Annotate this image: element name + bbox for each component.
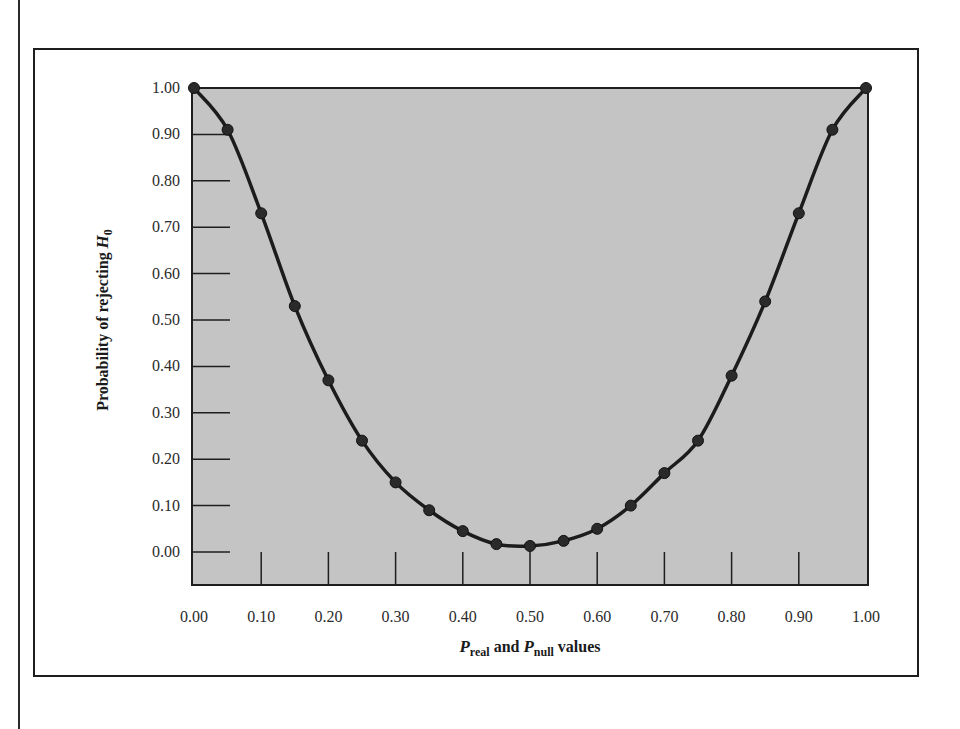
x-tick-label: 0.40	[449, 608, 477, 625]
y-tick-label: 0.80	[152, 172, 180, 189]
y-tick-label: 0.00	[152, 543, 180, 560]
x-axis-tick-labels: 0.000.100.200.300.400.500.600.700.800.90…	[180, 608, 880, 625]
data-point-marker	[457, 526, 468, 537]
data-point-marker	[525, 540, 536, 551]
x-title-p-null: P	[522, 637, 534, 656]
x-tick-label: 0.00	[180, 608, 208, 625]
x-tick-label: 0.80	[718, 608, 746, 625]
x-title-and: and	[490, 638, 524, 655]
data-point-marker	[726, 370, 737, 381]
data-point-marker	[323, 375, 334, 386]
data-point-marker	[558, 535, 569, 546]
y-tick-label: 0.20	[152, 450, 180, 467]
y-tick-label: 0.50	[152, 311, 180, 328]
plot-area	[192, 88, 868, 585]
y-title-h: H	[93, 234, 112, 249]
x-tick-label: 0.30	[382, 608, 410, 625]
data-point-marker	[256, 208, 267, 219]
y-title-sub-0: 0	[101, 229, 115, 235]
y-tick-label: 0.10	[152, 497, 180, 514]
power-curve-chart: 0.000.100.200.300.400.500.600.700.800.90…	[0, 0, 960, 729]
data-point-marker	[693, 435, 704, 446]
data-point-marker	[424, 505, 435, 516]
data-point-marker	[357, 435, 368, 446]
y-title-main: Probability of rejecting	[94, 248, 112, 411]
y-tick-label: 0.40	[152, 357, 180, 374]
data-point-marker	[760, 296, 771, 307]
y-tick-label: 0.30	[152, 404, 180, 421]
x-tick-label: 0.90	[785, 608, 813, 625]
x-tick-label: 0.50	[516, 608, 544, 625]
data-point-marker	[289, 301, 300, 312]
data-point-marker	[390, 477, 401, 488]
y-tick-label: 0.60	[152, 265, 180, 282]
x-title-sub-null: null	[534, 645, 555, 659]
plot-background	[192, 88, 868, 585]
data-point-marker	[625, 500, 636, 511]
x-title-sub-real: real	[470, 645, 490, 659]
x-tick-label: 1.00	[852, 608, 880, 625]
y-axis-title: Probability of rejecting H0	[93, 229, 115, 411]
y-tick-label: 0.70	[152, 218, 180, 235]
data-point-marker	[793, 208, 804, 219]
data-point-marker	[189, 83, 200, 94]
x-title-p-real: P	[458, 637, 470, 656]
x-tick-label: 0.20	[314, 608, 342, 625]
data-point-marker	[222, 124, 233, 135]
y-tick-label: 1.00	[152, 79, 180, 96]
x-tick-label: 0.60	[583, 608, 611, 625]
data-point-marker	[592, 523, 603, 534]
data-point-marker	[861, 83, 872, 94]
x-axis-title: Preal and Pnull values	[458, 637, 600, 659]
x-tick-label: 0.10	[247, 608, 275, 625]
x-title-values: values	[554, 638, 601, 655]
y-axis-tick-labels: 0.000.100.200.300.400.500.600.700.800.90…	[152, 79, 180, 560]
x-tick-label: 0.70	[650, 608, 678, 625]
data-point-marker	[491, 539, 502, 550]
data-point-marker	[659, 468, 670, 479]
data-point-marker	[827, 124, 838, 135]
y-tick-label: 0.90	[152, 125, 180, 142]
